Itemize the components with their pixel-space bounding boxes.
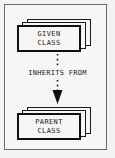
inherits-from-label: INHERITS FROM — [0, 69, 115, 77]
parent-class-stack-layer-front: PARENT CLASS — [17, 113, 81, 140]
parent-class-label-line2: CLASS — [37, 127, 60, 135]
inheritance-diagram: GIVEN CLASS INHERITS FROM PARENT CLASS — [0, 0, 115, 158]
parent-class-label-line1: PARENT — [35, 118, 63, 126]
given-class-stack-layer-front: GIVEN CLASS — [17, 25, 81, 52]
given-class-label-line2: CLASS — [37, 39, 60, 47]
parent-class-label: PARENT CLASS — [19, 115, 79, 138]
given-class-label-line1: GIVEN — [37, 30, 60, 38]
given-class-node[interactable]: GIVEN CLASS — [17, 19, 91, 52]
parent-class-node[interactable]: PARENT CLASS — [17, 107, 91, 140]
given-class-label: GIVEN CLASS — [19, 27, 79, 50]
